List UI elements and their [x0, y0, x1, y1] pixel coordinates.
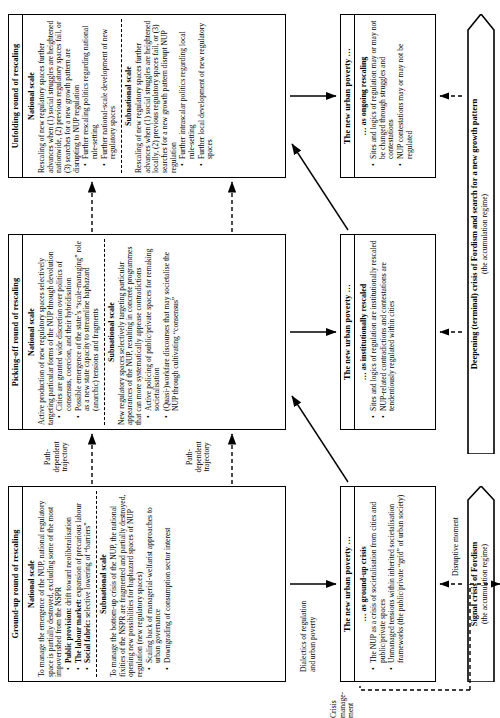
- arrow-crisis-management: [360, 686, 470, 690]
- banner-subtitle: (the accumulation regime): [481, 14, 490, 454]
- banner-title: Deepening (terminal) crisis of Fordism a…: [470, 14, 480, 454]
- arrow-crisis-feedback-1: [292, 396, 348, 482]
- arrow-crisis-feedback-2: [292, 144, 348, 230]
- banner-deepening-crisis: Deepening (terminal) crisis of Fordism a…: [466, 14, 496, 454]
